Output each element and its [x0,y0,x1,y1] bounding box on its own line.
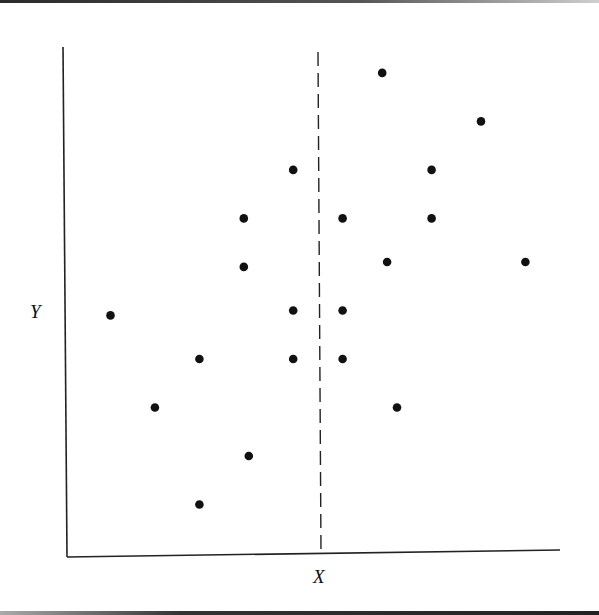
data-point [106,311,115,320]
data-point [240,214,249,223]
x-axis [67,550,560,557]
data-point [338,214,347,223]
scatter-plot [0,0,599,615]
data-point [338,306,347,315]
y-axis-label: Y [30,301,41,323]
y-axis [63,47,67,557]
data-point [195,500,204,509]
data-point [289,166,298,175]
data-point [427,214,436,223]
data-point [427,166,436,175]
data-point [383,258,392,267]
data-point [521,258,530,267]
data-point [195,355,204,364]
data-point [338,355,347,364]
data-point [245,452,254,461]
data-point [289,355,298,364]
dashed-reference-line [318,52,321,553]
bottom-border [0,611,599,615]
x-axis-label: X [313,566,325,588]
data-point [477,117,486,126]
data-point [378,69,387,78]
data-point [393,403,402,412]
data-point [289,306,298,315]
data-points [106,69,530,509]
data-point [240,263,249,272]
data-point [151,403,160,412]
